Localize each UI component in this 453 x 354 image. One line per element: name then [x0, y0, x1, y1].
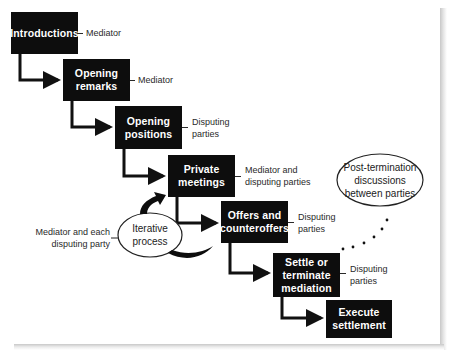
step-offers-counteroffers: Offers and counteroffers	[221, 201, 288, 243]
step-opening-remarks: Opening remarks	[63, 59, 130, 101]
role-opening-positions: Disputing parties	[192, 117, 230, 140]
step-execute-settlement: Execute settlement	[326, 300, 392, 338]
post-termination-label: Post-termination discussions between par…	[337, 154, 423, 206]
page-shadow-bottom	[14, 344, 444, 350]
diagram-page: Introductions Mediator Opening remarks M…	[0, 0, 440, 344]
role-opening-remarks: Mediator	[138, 75, 173, 87]
role-private-meetings: Mediator and disputing parties	[245, 165, 311, 188]
step-introductions: Introductions	[11, 12, 78, 54]
step-private-meetings: Private meetings	[168, 155, 235, 197]
iterative-process-label: Iterative process	[118, 213, 182, 257]
dotted-connector	[342, 219, 389, 251]
curved-arrow-up-icon	[140, 192, 166, 214]
page-shadow-right	[440, 8, 447, 350]
role-offers-counteroffers: Disputing parties	[298, 212, 336, 235]
step-settle-terminate: Settle or terminate mediation	[273, 253, 340, 297]
step-opening-positions: Opening positions	[115, 106, 182, 149]
role-settle-terminate: Disputing parties	[350, 264, 388, 287]
role-introductions: Mediator	[86, 28, 121, 40]
role-iterative: Mediator and each disputing party	[28, 227, 110, 250]
